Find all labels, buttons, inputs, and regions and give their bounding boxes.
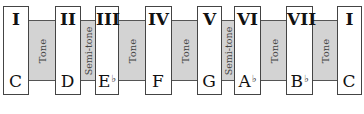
degree-box-6: VI A♭ (234, 6, 261, 95)
interval-label: Tone (127, 38, 138, 62)
degree-box-1: I C (3, 6, 29, 95)
degree-box-2: II D (55, 6, 81, 95)
degree-numeral: III (96, 9, 118, 29)
flat-sign: ♭ (111, 73, 116, 84)
degree-numeral: VII (287, 9, 312, 29)
interval-3-4: Tone (118, 20, 146, 81)
flat-sign: ♭ (304, 73, 309, 84)
interval-label: Tone (268, 38, 279, 62)
flat-sign: ♭ (252, 73, 257, 84)
interval-5-6: Semi-tone (221, 20, 235, 81)
interval-label: Tone (320, 38, 331, 62)
degree-note: E♭ (96, 71, 118, 91)
degree-numeral: I (338, 9, 361, 29)
degree-note: G (198, 71, 221, 91)
degree-numeral: V (198, 9, 221, 29)
degree-box-4: IV F (145, 6, 172, 95)
interval-1-2: Tone (28, 20, 56, 81)
degree-note: C (4, 71, 28, 91)
degree-note: F (146, 71, 171, 91)
degree-numeral: IV (146, 9, 171, 29)
degree-box-7: VII B♭ (286, 6, 313, 95)
degree-note: B♭ (287, 71, 312, 91)
degree-numeral: II (56, 9, 80, 29)
degree-note: A♭ (235, 71, 260, 91)
interval-label: Semi-tone (83, 26, 94, 75)
degree-numeral: VI (235, 9, 260, 29)
degree-box-5: V G (197, 6, 222, 95)
interval-7-8: Tone (312, 20, 338, 81)
degree-note: C (338, 71, 361, 91)
degree-box-3: III E♭ (95, 6, 119, 95)
interval-label: Tone (179, 38, 190, 62)
degree-note: D (56, 71, 80, 91)
interval-6-7: Tone (260, 20, 287, 81)
interval-4-5: Tone (171, 20, 198, 81)
degree-numeral: I (4, 9, 28, 29)
degree-box-8: I C (337, 6, 362, 95)
interval-label: Tone (37, 38, 48, 62)
interval-2-3: Semi-tone (80, 20, 96, 81)
interval-label: Semi-tone (223, 26, 234, 75)
